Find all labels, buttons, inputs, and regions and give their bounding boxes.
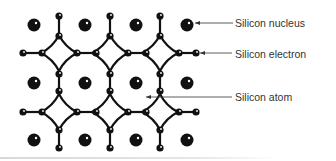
electron-dot	[142, 49, 149, 56]
electron-dot	[124, 108, 131, 115]
electron-dot	[124, 49, 131, 56]
electron-dot	[55, 70, 62, 77]
electron-dot	[38, 49, 45, 56]
electron-dot	[142, 108, 149, 115]
silicon-nucleus	[28, 77, 41, 90]
silicon-nucleus	[181, 134, 194, 147]
electron-dot	[106, 144, 113, 151]
silicon-nucleus	[79, 77, 92, 90]
electron-dot	[192, 49, 199, 56]
electron-dot	[156, 32, 163, 39]
electron-dot	[156, 87, 163, 94]
electron-dot	[106, 87, 113, 94]
electron-dot	[55, 87, 62, 94]
electron-dot	[55, 32, 62, 39]
electron-dot	[156, 12, 163, 19]
electron-dot	[55, 144, 62, 151]
label-silicon-atom: Silicon atom	[235, 91, 292, 103]
label-silicon-nucleus: Silicon nucleus	[235, 17, 305, 29]
electron-dot	[156, 126, 163, 133]
arrowhead-icon	[146, 95, 151, 99]
silicon-nucleus	[28, 134, 41, 147]
silicon-nucleus	[28, 19, 41, 32]
electron-dot	[106, 12, 113, 19]
covalent-bond-ring	[41, 35, 77, 71]
silicon-nucleus	[130, 19, 143, 32]
electron-dot	[156, 70, 163, 77]
arrowhead-icon	[200, 51, 205, 55]
electron-dot	[156, 144, 163, 151]
arrowhead-icon	[195, 21, 200, 25]
electron-dot	[38, 108, 45, 115]
electron-dot	[55, 126, 62, 133]
silicon-nucleus	[79, 19, 92, 32]
silicon-nucleus	[130, 134, 143, 147]
electron-dot	[106, 32, 113, 39]
silicon-nucleus	[130, 77, 143, 90]
electron-dot	[175, 108, 182, 115]
electron-dot	[73, 108, 80, 115]
page-divider	[0, 157, 280, 159]
electron-dot	[73, 49, 80, 56]
electron-dot	[175, 49, 182, 56]
electron-dot	[192, 108, 199, 115]
electron-dot	[19, 49, 26, 56]
electron-dot	[106, 126, 113, 133]
electron-dot	[55, 12, 62, 19]
silicon-nucleus	[181, 77, 194, 90]
electron-dot	[19, 108, 26, 115]
silicon-nucleus	[79, 134, 92, 147]
covalent-bond-ring	[41, 94, 77, 130]
silicon-nucleus	[181, 19, 194, 32]
label-silicon-electron: Silicon electron	[235, 48, 306, 60]
electron-dot	[106, 70, 113, 77]
electron-dot	[92, 108, 99, 115]
electron-dot	[92, 49, 99, 56]
